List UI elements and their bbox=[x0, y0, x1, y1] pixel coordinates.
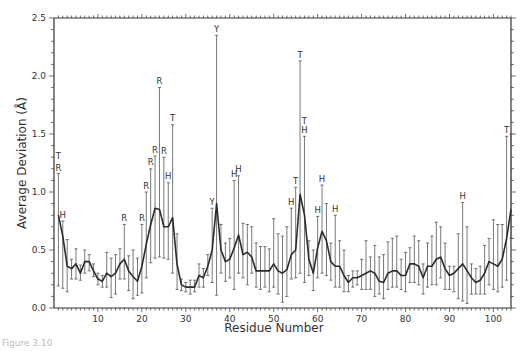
residue-label: R bbox=[161, 146, 167, 156]
residue-label: Y bbox=[209, 197, 216, 207]
x-tick-label: 10 bbox=[92, 314, 104, 324]
residue-label: H bbox=[301, 125, 307, 135]
x-tick-label: 80 bbox=[400, 314, 412, 324]
residue-label: R bbox=[139, 213, 145, 223]
residue-label: H bbox=[459, 191, 465, 201]
residue-label: H bbox=[314, 205, 320, 215]
x-tick-label: 100 bbox=[485, 314, 502, 324]
x-tick-label: 90 bbox=[444, 314, 456, 324]
residue-label: H bbox=[319, 174, 325, 184]
y-tick-label: 0.5 bbox=[32, 245, 46, 255]
residue-label: T bbox=[503, 125, 510, 135]
residue-label: H bbox=[288, 197, 294, 207]
y-tick-label: 0.0 bbox=[32, 303, 47, 313]
y-tick-label: 2.5 bbox=[32, 13, 46, 23]
residue-label: R bbox=[157, 76, 163, 86]
x-tick-label: 70 bbox=[356, 314, 368, 324]
residue-label: Y bbox=[213, 24, 220, 34]
x-tick-label: 20 bbox=[136, 314, 148, 324]
x-axis-title: Residue Number bbox=[224, 321, 323, 335]
y-tick-label: 2.0 bbox=[32, 71, 47, 81]
y-tick-label: 1.0 bbox=[32, 187, 47, 197]
residue-annotations: TRHRRRRRRRHTYYHHHTTTHHHHHT bbox=[55, 24, 510, 223]
residue-label: R bbox=[55, 163, 61, 173]
residue-label: H bbox=[235, 164, 241, 174]
x-tick-label: 30 bbox=[180, 314, 192, 324]
residue-label: T bbox=[55, 151, 62, 161]
residue-label: R bbox=[152, 145, 158, 155]
residue-label: R bbox=[143, 181, 149, 191]
y-tick-label: 1.5 bbox=[32, 129, 46, 139]
residue-label: H bbox=[60, 210, 66, 220]
deviation-chart: 1020304050607080901000.00.51.01.52.02.5 … bbox=[0, 0, 528, 351]
mean-deviation-line bbox=[58, 194, 511, 287]
residue-label: H bbox=[165, 171, 171, 181]
residue-label: T bbox=[292, 176, 299, 186]
residue-label: R bbox=[148, 157, 154, 167]
residue-label: T bbox=[296, 50, 303, 60]
figure-caption: Figure 3.10 bbox=[2, 338, 52, 348]
residue-label: R bbox=[121, 213, 127, 223]
residue-label: H bbox=[332, 204, 338, 214]
residue-label: T bbox=[169, 113, 176, 123]
y-axis-title: Average Deviation (Å) bbox=[14, 97, 29, 229]
